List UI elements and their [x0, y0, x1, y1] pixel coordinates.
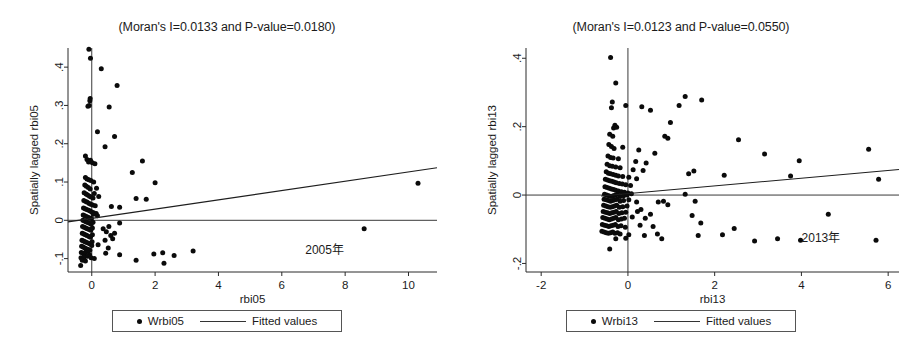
data-point: [613, 80, 618, 85]
data-point: [635, 209, 640, 214]
y-tick-label: .1: [53, 177, 65, 187]
data-point: [92, 256, 97, 261]
y-tick-label: .2: [511, 122, 523, 132]
x-tick-label: 8: [342, 279, 348, 291]
scatter-points: [599, 55, 881, 252]
data-point: [94, 186, 99, 191]
data-point: [686, 171, 691, 176]
data-point: [153, 180, 158, 185]
data-point: [625, 204, 630, 209]
data-point: [762, 152, 767, 157]
legend-label: Fitted values: [706, 315, 771, 327]
data-point: [623, 210, 628, 215]
data-point: [623, 225, 628, 230]
data-point: [683, 94, 688, 99]
data-point: [115, 83, 120, 88]
data-point: [668, 120, 673, 125]
x-tick-label: 6: [885, 279, 891, 291]
data-point: [613, 165, 618, 170]
legend-label: Fitted values: [252, 315, 317, 327]
data-point: [642, 233, 647, 238]
year-annotation: 2005年: [305, 243, 344, 257]
data-point: [636, 147, 641, 152]
x-tick-label: 0: [89, 279, 95, 291]
data-point: [614, 125, 619, 130]
data-point: [160, 250, 165, 255]
data-point: [722, 173, 727, 178]
data-point: [112, 134, 117, 139]
data-point: [103, 238, 108, 243]
data-point: [691, 169, 696, 174]
data-point: [876, 177, 881, 182]
data-point: [690, 213, 695, 218]
y-tick-label: -.1: [53, 252, 65, 265]
data-point: [631, 167, 636, 172]
y-tick-label: 0: [511, 192, 523, 198]
data-point: [88, 56, 93, 61]
scatter-points: [78, 47, 420, 268]
legend-item: Fitted values: [654, 315, 771, 327]
data-point: [416, 181, 421, 186]
data-point: [151, 252, 156, 257]
data-point: [648, 108, 653, 113]
data-point: [652, 151, 657, 156]
data-point: [85, 104, 90, 109]
data-point: [620, 174, 625, 179]
fitted-values-line: [601, 170, 899, 196]
data-point: [626, 175, 631, 180]
y-axis-title: Spatially lagged rbi05: [28, 105, 40, 215]
data-point: [103, 144, 108, 149]
data-point: [628, 183, 633, 188]
data-point: [866, 147, 871, 152]
data-point: [665, 202, 670, 207]
legend-label: Wrbi05: [148, 315, 184, 327]
data-point: [620, 204, 625, 209]
data-point: [639, 104, 644, 109]
data-point: [630, 214, 635, 219]
x-tick-label: 2: [711, 279, 717, 291]
data-point: [96, 194, 101, 199]
x-tick-label: 0: [625, 279, 631, 291]
data-point: [661, 199, 666, 204]
data-point: [172, 253, 177, 258]
y-tick-label: .2: [53, 139, 65, 149]
data-point: [109, 204, 114, 209]
data-point: [103, 251, 108, 256]
y-axis-title: Spatially lagged rbi13: [486, 105, 498, 215]
data-point: [104, 229, 109, 234]
data-point: [91, 196, 96, 201]
x-axis-title: rbi05: [240, 293, 266, 305]
data-point: [612, 146, 617, 151]
legend-item: Fitted values: [200, 315, 317, 327]
scatter-plot-2013: -.20.2.4-20246rbi13Spatially lagged rbi1…: [454, 0, 908, 350]
data-point: [90, 225, 95, 230]
data-point: [677, 103, 682, 108]
data-point: [99, 66, 104, 71]
data-point: [92, 161, 97, 166]
data-point: [134, 196, 139, 201]
data-point: [622, 216, 627, 221]
data-point: [752, 238, 757, 243]
data-point: [618, 232, 623, 237]
data-point: [140, 158, 145, 163]
data-point: [130, 170, 135, 175]
data-point: [144, 197, 149, 202]
data-point: [91, 220, 96, 225]
data-point: [191, 248, 196, 253]
y-tick-label: .4: [53, 62, 65, 72]
data-point: [732, 226, 737, 231]
data-point: [78, 263, 83, 268]
x-tick-label: 4: [798, 279, 805, 291]
data-point: [641, 168, 646, 173]
data-point: [621, 198, 626, 203]
data-point: [95, 129, 100, 134]
data-point: [83, 258, 88, 263]
legend-marker-dot: [591, 319, 596, 324]
data-point: [110, 236, 115, 241]
data-point: [623, 103, 628, 108]
data-point: [608, 55, 613, 60]
legend-2005: Wrbi05Fitted values: [112, 310, 342, 332]
x-tick-label: 4: [215, 279, 222, 291]
data-point: [634, 199, 639, 204]
data-point: [609, 105, 614, 110]
